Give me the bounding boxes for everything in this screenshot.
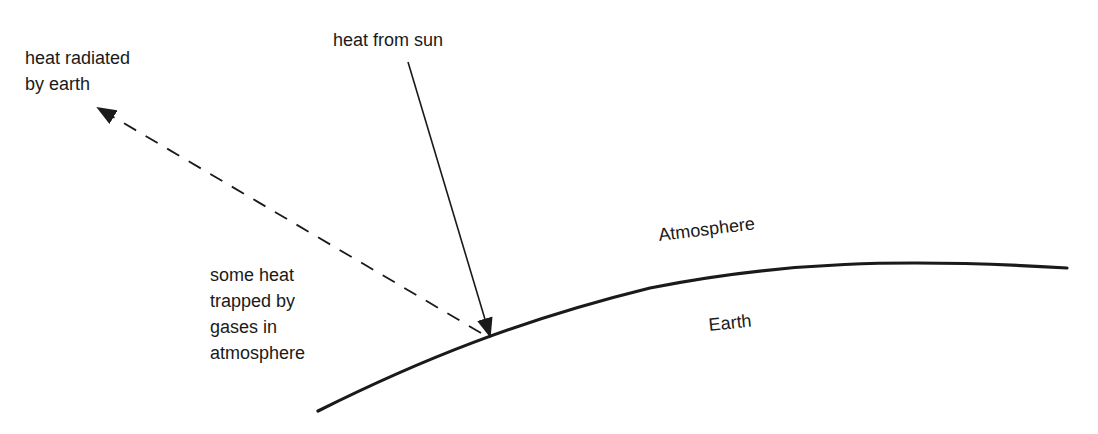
heat-radiated-label: heat radiated by earth bbox=[25, 45, 130, 97]
heat-from-sun-label: heat from sun bbox=[333, 27, 443, 53]
earth-surface-curve bbox=[318, 263, 1067, 411]
greenhouse-diagram: heat radiated by earth heat from sun som… bbox=[0, 0, 1098, 434]
heat-trapped-label: some heat trapped by gases in atmosphere bbox=[210, 262, 305, 366]
trapped-line-3: gases in bbox=[210, 314, 305, 340]
heat-radiated-line-1: heat radiated bbox=[25, 45, 130, 71]
trapped-line-2: trapped by bbox=[210, 288, 305, 314]
sun-heat-arrow bbox=[408, 62, 490, 336]
trapped-line-4: atmosphere bbox=[210, 340, 305, 366]
trapped-line-1: some heat bbox=[210, 262, 305, 288]
heat-radiated-line-2: by earth bbox=[25, 71, 130, 97]
diagram-graphics bbox=[0, 0, 1098, 434]
earth-label: Earth bbox=[707, 308, 753, 338]
